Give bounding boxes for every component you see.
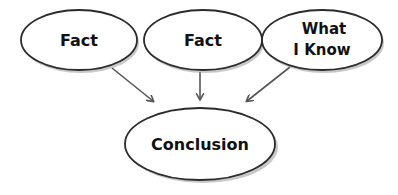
label-fact-1: Fact [60, 31, 98, 50]
node-conclusion: Conclusion [125, 108, 278, 183]
label-what: What [302, 20, 347, 38]
diagram-canvas: Fact Fact What I Know Conclusion [0, 0, 398, 195]
label-i-know: I Know [293, 41, 350, 59]
node-fact-2: Fact [144, 10, 264, 73]
label-fact-2: Fact [184, 31, 222, 50]
node-fact-1: Fact [21, 10, 139, 73]
ellipse-what-i-know [262, 10, 382, 70]
label-conclusion: Conclusion [151, 135, 249, 154]
arrow-fact1-to-conclusion [112, 68, 153, 101]
arrow-know-to-conclusion [247, 67, 290, 101]
node-what-i-know: What I Know [262, 10, 384, 73]
